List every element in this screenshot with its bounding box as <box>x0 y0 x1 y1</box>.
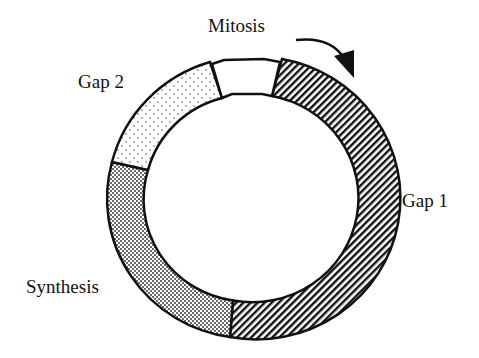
label-mitosis: Mitosis <box>208 15 265 36</box>
label-synthesis: Synthesis <box>26 276 99 297</box>
gap1-segment <box>230 59 400 339</box>
label-gap1: Gap 1 <box>402 190 448 211</box>
gap2-segment <box>112 62 222 170</box>
label-gap2: Gap 2 <box>78 71 124 92</box>
synthesis-segment <box>107 162 233 337</box>
cell-cycle-diagram: Mitosis Gap 1 Synthesis Gap 2 <box>0 0 479 358</box>
mitosis-segment <box>212 59 280 98</box>
